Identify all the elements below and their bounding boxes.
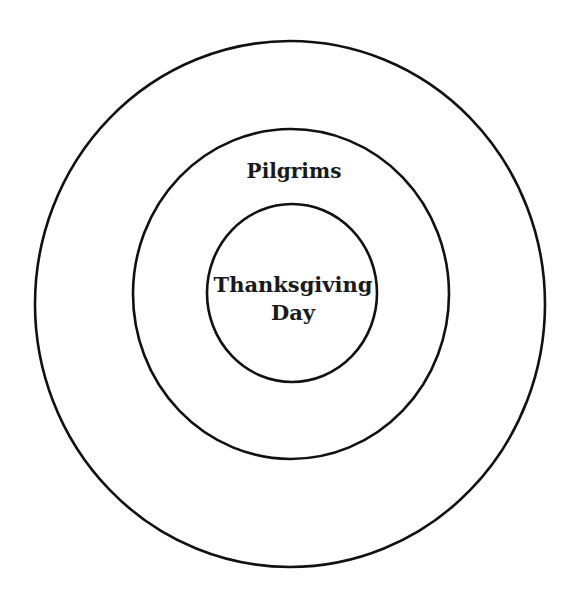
inner-circle-label-line2: Day	[271, 300, 316, 325]
inner-circle-label-line1: Thanksgiving	[214, 272, 373, 297]
concentric-circle-diagram: Pilgrims Thanksgiving Day	[0, 0, 572, 595]
middle-ring-label: Pilgrims	[247, 159, 342, 183]
